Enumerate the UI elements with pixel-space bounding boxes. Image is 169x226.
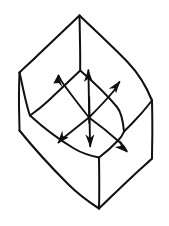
apex-vertical-rib — [80, 16, 81, 71]
figure-container — [0, 0, 169, 226]
left-vertical-edge — [19, 73, 20, 131]
isometric-box-with-arrows-drawing — [0, 0, 169, 226]
